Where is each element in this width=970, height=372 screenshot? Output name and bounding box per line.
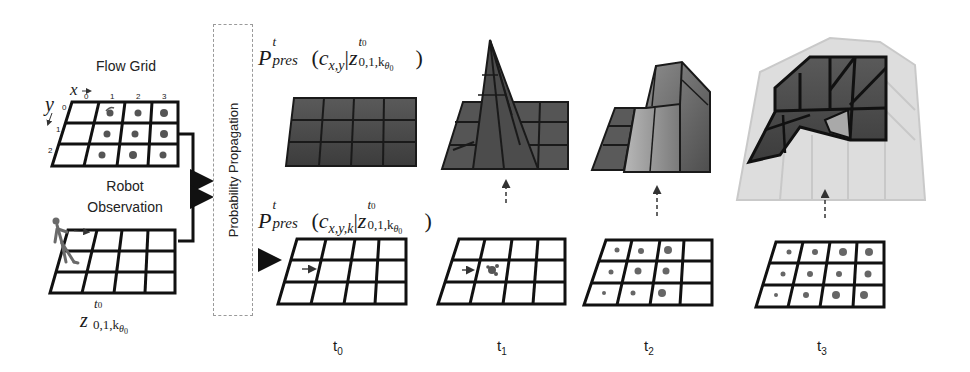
- sub-theta-sub: 0: [124, 327, 128, 336]
- formula-P-scripts: tpres: [271, 218, 311, 228]
- t-sub: 2: [648, 346, 654, 357]
- formula-close-paren: ): [415, 45, 422, 70]
- grid-t2: [584, 240, 712, 305]
- formula-z-sub: 0,1,kθ0: [358, 55, 393, 68]
- formula-z-scripts: t00,1,kθ0: [366, 218, 424, 228]
- robot-observation-title-line1: Robot: [80, 178, 170, 194]
- formula-P: P: [258, 45, 271, 70]
- z-sup-sub: 0: [362, 38, 367, 48]
- formula-z-sup: t0: [358, 35, 366, 48]
- timestep-label-t3: t3: [817, 337, 827, 357]
- sup-sub: 0: [98, 300, 103, 310]
- formula-z: z: [349, 45, 358, 70]
- timestep-label-t2: t2: [644, 337, 654, 357]
- robot-observation-grid: [50, 230, 175, 293]
- flow-grid-title: Flow Grid: [76, 58, 176, 74]
- flow-grid-to-propagation-arrow: [178, 134, 208, 181]
- bottom-formula: Ptpres(cx,y,k|zt00,1,kθ0): [258, 210, 432, 232]
- surface-t0: [286, 98, 416, 166]
- formula-P-sub: pres: [272, 216, 297, 231]
- t-sub: 0: [337, 346, 343, 357]
- top-formula: Ptpres(cx,y|zt00,1,kθ0): [258, 47, 423, 69]
- formula-open-paren: (: [311, 45, 318, 70]
- formula-c-sub: x,y,k: [329, 221, 354, 236]
- formula-P: P: [258, 208, 271, 233]
- formula-superscript: t0: [94, 297, 102, 310]
- y-tick-0: 0: [62, 103, 66, 112]
- y-axis-label: y: [45, 93, 54, 116]
- probability-propagation-label: Probability Propagation: [226, 103, 241, 237]
- z-sub-indices: 0,1,k: [367, 217, 393, 232]
- sub-indices: 0,1,k: [93, 317, 119, 332]
- surface-t2: [592, 62, 710, 172]
- robot-observation-title-line2: Observation: [70, 199, 180, 215]
- timestep-label-t1: t1: [497, 337, 507, 357]
- formula-P-scripts: tpres: [271, 55, 311, 65]
- z-sup-sub: 0: [371, 201, 376, 211]
- formula-c-sub: x,y: [329, 58, 345, 73]
- x-tick-1: 1: [110, 92, 114, 101]
- formula-P-sup: t: [272, 35, 276, 48]
- x-tick-0: 0: [84, 92, 88, 101]
- x-tick-3: 3: [162, 92, 166, 101]
- y-tick-1: 1: [56, 125, 60, 134]
- grid-t3: [756, 242, 884, 307]
- surface-t3: [737, 38, 925, 200]
- formula-z-scripts: t00,1,kθ0: [357, 55, 415, 65]
- formula-c: c: [319, 45, 329, 70]
- formula-z-sup: t0: [367, 198, 375, 211]
- formula-z-sub: 0,1,kθ0: [367, 218, 402, 231]
- formula-P-sub: pres: [272, 53, 297, 68]
- flow-grid: [48, 91, 178, 166]
- formula-z: z: [80, 309, 88, 331]
- observation-formula: z t0 0,1,kθ0: [80, 310, 88, 330]
- formula-c: c: [319, 208, 329, 233]
- y-tick-2: 2: [48, 146, 52, 155]
- surface-t1: [442, 40, 568, 169]
- formula-P-sup: t: [272, 198, 276, 211]
- t-sub: 3: [821, 346, 827, 357]
- formula-z: z: [358, 208, 367, 233]
- z-sub-theta-sub: 0: [389, 64, 393, 73]
- z-sub-theta-sub: 0: [398, 227, 402, 236]
- x-axis-label: x: [70, 80, 78, 100]
- grid-t1: [438, 239, 565, 304]
- probability-propagation-box: Probability Propagation: [213, 24, 253, 316]
- t-sub: 1: [501, 346, 507, 357]
- formula-open-paren: (: [311, 208, 318, 233]
- formula-close-paren: ): [424, 208, 431, 233]
- observation-to-propagation-arrow: [178, 197, 208, 241]
- z-sub-indices: 0,1,k: [358, 54, 384, 69]
- grid-t0: [278, 239, 406, 304]
- formula-subscript: 0,1,kθ0: [93, 318, 128, 331]
- timestep-label-t0: t0: [333, 337, 343, 357]
- x-tick-2: 2: [136, 92, 140, 101]
